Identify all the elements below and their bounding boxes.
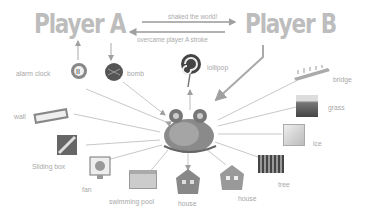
player-a-title: Player A (34, 10, 125, 37)
swimming-pool-icon (129, 170, 157, 190)
ice-block-icon (283, 124, 305, 146)
grass-block-icon (296, 95, 320, 119)
svg-text:II: II (76, 68, 80, 75)
sliding-box-icon (55, 133, 79, 157)
fan-icon (89, 156, 111, 180)
edge-label-b-to-a: overcame player A stroke (137, 36, 208, 43)
tree-block-icon (258, 155, 286, 177)
label-swimming-pool: swimming pool (109, 198, 154, 206)
alarm-clock-icon: II (69, 60, 89, 80)
house-icon-1 (175, 168, 201, 196)
wall-icon (34, 108, 68, 122)
label-ice: ice (313, 140, 322, 148)
label-grass: grass (328, 104, 345, 112)
label-house-2: house (238, 195, 257, 203)
house-icon-2 (219, 164, 245, 192)
edge-label-a-to-b: shaked the world! (168, 13, 217, 20)
label-house-1: house (178, 200, 197, 208)
label-sliding-box: Sliding box (32, 163, 65, 171)
center-snail-icon (158, 106, 220, 154)
lollipop-icon (180, 53, 202, 89)
label-lollipop: lollipop (207, 64, 228, 72)
bridge-icon (292, 64, 332, 82)
player-b-title: Player B (245, 10, 336, 37)
label-alarm-clock: alarm clock (16, 70, 50, 78)
label-bomb: bomb (127, 70, 144, 78)
label-wall: wall (14, 113, 26, 121)
label-fan: fan (82, 186, 91, 194)
label-bridge: bridge (333, 76, 352, 84)
label-tree: tree (278, 181, 290, 189)
bomb-icon (103, 60, 125, 82)
